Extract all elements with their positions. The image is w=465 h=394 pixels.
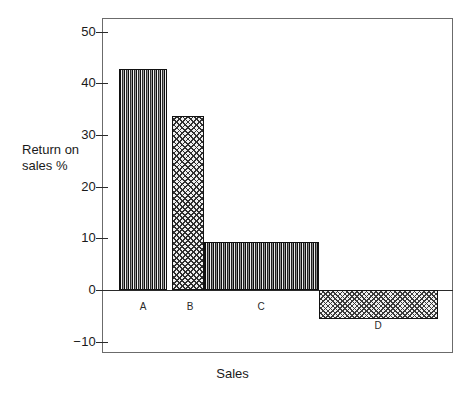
ytick-mark-10 [96, 238, 108, 239]
ytick-label-40: 40 [36, 76, 96, 89]
ytick-label-neg10: −10 [36, 335, 96, 348]
ytick-mark-neg10 [96, 342, 108, 343]
bar-label-a: A [131, 301, 155, 312]
y-axis-title-line1: Return on [22, 142, 102, 158]
ytick-10: 10 [0, 231, 96, 244]
x-axis-title: Sales [0, 366, 465, 381]
ytick-label-30: 30 [36, 128, 96, 141]
ytick-20: 20 [0, 180, 96, 193]
ytick-0: 0 [0, 283, 96, 296]
ytick-label-0: 0 [36, 283, 96, 296]
ytick-30: 30 [0, 128, 96, 141]
bar-d[interactable] [319, 290, 438, 319]
ytick-mark-20 [96, 187, 108, 188]
ytick-label-10: 10 [36, 231, 96, 244]
y-axis-title: Return on sales % [22, 142, 102, 174]
ytick-40: 40 [0, 76, 96, 89]
ytick-mark-50 [96, 32, 108, 33]
bar-label-d: D [366, 320, 390, 331]
bar-label-c: C [249, 301, 273, 312]
ytick-label-20: 20 [36, 180, 96, 193]
ytick-mark-30 [96, 135, 108, 136]
y-axis-title-line2: sales % [22, 158, 102, 174]
bar-a[interactable] [119, 69, 167, 290]
ytick-neg10: −10 [0, 335, 96, 348]
ytick-50: 50 [0, 25, 96, 38]
ytick-mark-40 [96, 83, 108, 84]
chart-canvas: 50 40 30 20 10 0 −10 Return on sales % A… [0, 0, 465, 394]
bar-c[interactable] [204, 242, 319, 290]
bar-label-b: B [178, 301, 202, 312]
bar-b[interactable] [172, 116, 204, 290]
ytick-label-50: 50 [36, 25, 96, 38]
